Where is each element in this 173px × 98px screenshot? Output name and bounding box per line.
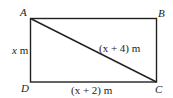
vertex-a-label: A: [20, 7, 27, 18]
side-dc-label: (x + 2) m: [71, 85, 112, 96]
vertex-b-label: B: [158, 8, 165, 19]
vertex-c-label: C: [155, 84, 162, 95]
vertex-d-label: D: [21, 83, 29, 94]
side-ad-label: x m: [12, 45, 28, 56]
diagonal-ac-label: (x + 4) m: [99, 43, 140, 54]
